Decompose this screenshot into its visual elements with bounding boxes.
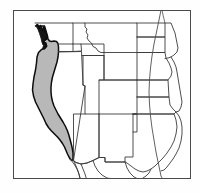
- map-frame: [13, 10, 191, 179]
- figure-root: Western United States distribution map W…: [0, 0, 200, 193]
- map-svg: [13, 10, 191, 179]
